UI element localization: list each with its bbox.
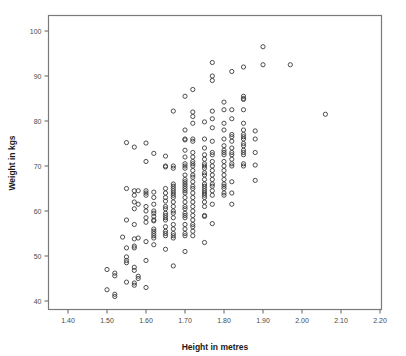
x-tick-label: 1.50 <box>100 317 114 324</box>
y-tick-label: 100 <box>30 28 42 35</box>
x-tick-label: 1.90 <box>256 317 270 324</box>
x-tick-label: 2.00 <box>295 317 309 324</box>
y-axis-title: Weight in kgs <box>7 135 17 190</box>
y-tick-label: 40 <box>34 298 42 305</box>
y-tick-label: 90 <box>34 73 42 80</box>
x-axis-title: Height in metres <box>182 342 249 352</box>
x-tick-label: 1.40 <box>61 317 75 324</box>
x-tick-label: 1.60 <box>139 317 153 324</box>
y-tick-label: 80 <box>34 118 42 125</box>
scatter-plot-figure: 1.401.501.601.701.801.902.002.102.20 405… <box>0 0 406 356</box>
x-tick-label: 2.10 <box>334 317 348 324</box>
y-tick-label: 60 <box>34 208 42 215</box>
y-tick-label: 50 <box>34 253 42 260</box>
x-tick-label: 1.80 <box>217 317 231 324</box>
x-tick-label: 1.70 <box>178 317 192 324</box>
x-tick-label: 2.20 <box>373 317 387 324</box>
y-tick-label: 70 <box>34 163 42 170</box>
plot-svg: 1.401.501.601.701.801.902.002.102.20 405… <box>0 0 406 356</box>
